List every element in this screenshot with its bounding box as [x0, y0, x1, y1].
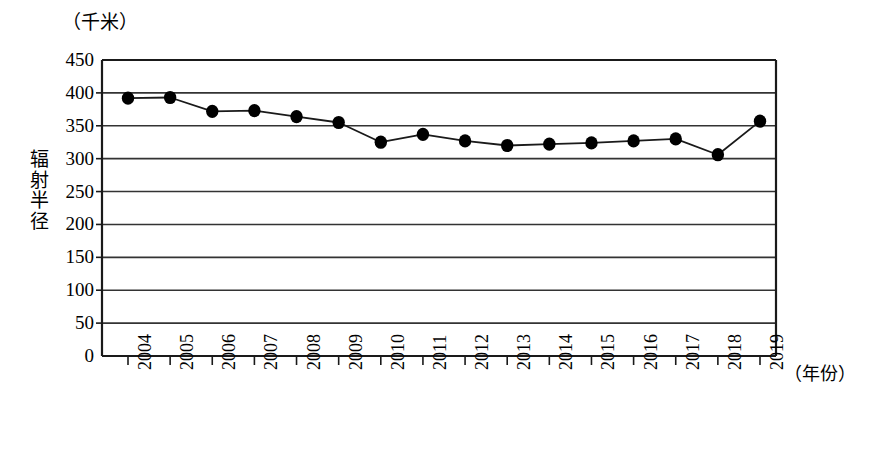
data-point: 2005: 393 [164, 91, 176, 104]
data-point: 2018: 306 [712, 148, 724, 161]
data-point: 2004: 392 [122, 92, 134, 105]
x-axis-tick-label: 2012 [473, 334, 491, 370]
plot-frame [96, 60, 776, 356]
x-axis-tick-label: 2007 [262, 334, 280, 370]
y-axis-tick-label: 300 [48, 149, 94, 168]
x-axis-tick-label: 2005 [178, 334, 196, 370]
data-point: 2006: 372 [206, 105, 218, 118]
y-axis-tick-label: 400 [48, 83, 94, 102]
data-point: 2013: 320 [501, 139, 513, 152]
data-point: 2014: 322 [543, 138, 555, 151]
x-axis-tick-label: 2017 [684, 334, 702, 370]
data-point: 2007: 373 [248, 104, 260, 117]
data-point: 2010: 325 [375, 136, 387, 149]
x-axis-tick-label: 2008 [305, 334, 323, 370]
y-axis-tick-label: 450 [48, 50, 94, 69]
x-axis-tick-label: 2015 [599, 334, 617, 370]
data-point: 2009: 355 [332, 116, 344, 129]
plot-area: 2004: 3922005: 3932006: 3722007: 3732008… [0, 0, 870, 450]
data-point: 2016: 327 [627, 134, 639, 147]
y-axis-tick-label: 100 [48, 280, 94, 299]
y-axis-tick-label: 250 [48, 182, 94, 201]
data-point: 2019: 357 [754, 115, 766, 128]
x-axis-tick-label: 2016 [642, 334, 660, 370]
data-point: 2017: 330 [670, 132, 682, 145]
x-axis-tick-label: 2019 [768, 334, 786, 370]
y-axis-tick-label: 200 [48, 214, 94, 233]
data-point: 2012: 327 [459, 134, 471, 147]
data-point: 2008: 364 [290, 110, 302, 123]
data-point: 2011: 337 [417, 128, 429, 141]
x-axis-tick-label: 2013 [515, 334, 533, 370]
x-axis-tick-label: 2018 [726, 334, 744, 370]
x-axis-tick-label: 2011 [431, 335, 449, 370]
gridlines [102, 60, 776, 323]
y-axis-tick-label: 150 [48, 247, 94, 266]
x-axis-tick-label: 2014 [557, 334, 575, 370]
x-axis-tick-label: 2009 [347, 334, 365, 370]
x-axis-tick-label: 2004 [136, 334, 154, 370]
y-axis-tick-label: 350 [48, 116, 94, 135]
y-axis-tick-label: 50 [48, 313, 94, 332]
x-axis-tick-label: 2010 [389, 334, 407, 370]
x-axis-tick-label: 2006 [220, 334, 238, 370]
y-axis-tick-label: 0 [48, 346, 94, 365]
data-point: 2015: 324 [585, 136, 597, 149]
line-chart: （千米） 辐 射 半 径 （年份） 2004: 3922005: 3932006… [0, 0, 870, 450]
